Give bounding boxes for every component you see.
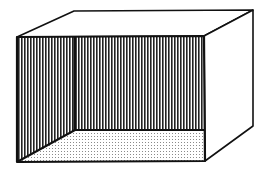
right-face <box>204 10 253 161</box>
box-diagram-svg <box>0 0 271 174</box>
back-wall <box>75 37 205 130</box>
box-diagram: Top face Right face Back wall Left wall … <box>0 0 271 174</box>
